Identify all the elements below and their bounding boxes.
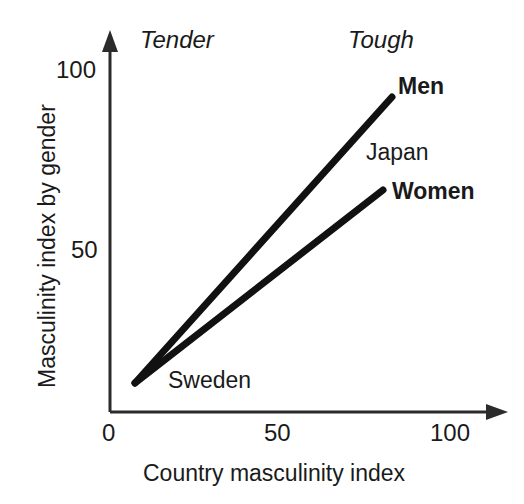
series-label-women: Women [392, 180, 475, 203]
y-tick-label-100: 100 [56, 58, 96, 82]
x-tick-label-50: 50 [264, 421, 291, 445]
annotation-japan: Japan [366, 141, 429, 164]
y-axis-title: Masculinity index by gender [36, 104, 59, 388]
x-axis-arrowhead [486, 404, 508, 420]
series-line-men [135, 97, 392, 383]
series-label-men: Men [398, 75, 444, 98]
x-axis-title: Country masculinity index [143, 462, 405, 485]
x-tick-label-100: 100 [430, 421, 470, 445]
annotation-tender: Tender [140, 28, 214, 52]
chart-figure: Tender Tough Men Women Japan Sweden 100 … [0, 0, 524, 504]
annotation-sweden: Sweden [168, 369, 251, 392]
annotation-tough: Tough [348, 28, 414, 52]
x-tick-label-0: 0 [102, 421, 115, 445]
y-axis-arrowhead [102, 30, 118, 52]
y-tick-label-50: 50 [71, 238, 98, 262]
series-line-women [135, 190, 383, 383]
